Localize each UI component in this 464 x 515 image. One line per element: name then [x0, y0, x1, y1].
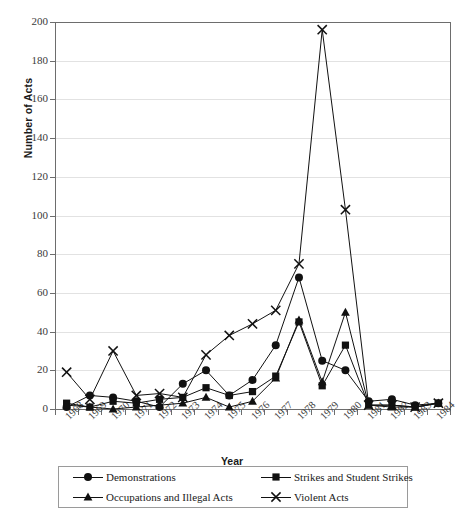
data-point — [249, 376, 257, 384]
data-point — [109, 398, 116, 405]
data-point — [341, 366, 349, 374]
legend-marker-svg — [261, 491, 291, 503]
legend-marker-x-icon — [261, 491, 291, 503]
legend-marker-square-icon — [261, 471, 291, 483]
data-point — [341, 308, 350, 316]
data-point — [202, 384, 209, 391]
legend-item-demonstrations[interactable]: Demonstrations — [59, 471, 259, 483]
chart-container: Number of Acts 0204060801001201401601802… — [0, 0, 464, 515]
legend: DemonstrationsStrikes and Student Strike… — [58, 466, 408, 508]
data-point — [318, 357, 326, 365]
data-point — [271, 306, 280, 315]
legend-label: Demonstrations — [106, 471, 176, 483]
legend-item-occupations-and-illegal-acts[interactable]: Occupations and Illegal Acts — [59, 491, 259, 503]
legend-item-strikes-and-student-strikes[interactable]: Strikes and Student Strikes — [259, 471, 407, 483]
data-point — [249, 388, 256, 395]
legend-marker-triangle-icon — [73, 491, 103, 503]
data-point — [108, 346, 117, 355]
legend-marker — [271, 492, 280, 501]
legend-marker — [84, 473, 92, 481]
series-violent-acts — [62, 25, 443, 412]
data-point — [342, 342, 349, 349]
legend-marker-svg — [73, 491, 103, 503]
data-point — [272, 341, 280, 349]
legend-label: Strikes and Student Strikes — [294, 471, 413, 483]
data-point — [62, 368, 71, 377]
legend-item-violent-acts[interactable]: Violent Acts — [259, 491, 407, 503]
legend-marker-svg — [261, 471, 291, 483]
data-point — [202, 366, 210, 374]
data-point — [248, 319, 257, 328]
legend-marker-svg — [73, 471, 103, 483]
series-line — [67, 30, 439, 407]
legend-marker — [84, 492, 93, 500]
legend-label: Occupations and Illegal Acts — [106, 491, 233, 503]
data-point — [202, 393, 211, 401]
legend-marker-circle-icon — [73, 471, 103, 483]
data-point — [226, 392, 233, 399]
series-plot-area — [0, 0, 464, 515]
data-point — [225, 331, 234, 340]
series-line — [67, 277, 439, 407]
data-point — [295, 273, 303, 281]
data-point — [179, 380, 187, 388]
legend-label: Violent Acts — [294, 491, 349, 503]
data-point — [201, 350, 210, 359]
legend-marker — [272, 473, 279, 480]
